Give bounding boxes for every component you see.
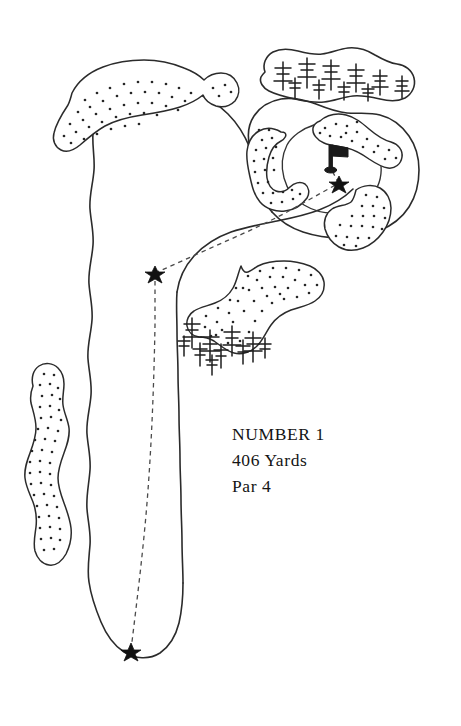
hole-yardage-label: 406 Yards: [232, 447, 325, 473]
right-dogleg-bunker: [187, 261, 324, 354]
upper-left-waste-bunker: [53, 60, 238, 151]
fairway-outline: [87, 88, 353, 658]
hole-number-label: NUMBER 1: [232, 421, 325, 447]
grove-conifers: [274, 58, 409, 101]
hole-par-label: Par 4: [232, 473, 325, 499]
dashed-shot-line: [131, 168, 339, 650]
left-rough-long-bunker: [25, 364, 71, 566]
upper-right-tree-grove: [260, 48, 414, 102]
approach-ball-star-marker: [329, 176, 349, 193]
green-upper-right-bunker: [313, 114, 402, 168]
green-left-crescent-bunker: [247, 128, 309, 211]
hole-info-block: NUMBER 1 406 Yards Par 4: [232, 421, 325, 499]
flagstick-pin: [325, 145, 348, 173]
tee-star-marker: [121, 643, 141, 661]
landing-zone-star-marker: [145, 266, 165, 283]
golf-hole-diagram: [0, 0, 461, 726]
green-lower-right-bunker: [324, 186, 391, 251]
